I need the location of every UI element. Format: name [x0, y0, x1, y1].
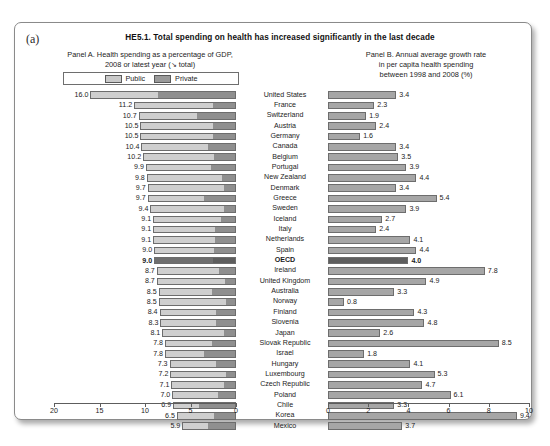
panel-a-value-label: 8.5: [123, 288, 157, 296]
panel-a-bar-segment-public: [154, 237, 215, 243]
panel-a-tick-label: 15: [96, 407, 104, 415]
panel-a-bar-segment-private: [158, 92, 235, 98]
panel-a-bar: [146, 164, 236, 172]
chart-row: 16.0United States3.4: [0, 90, 550, 100]
panel-a-tick-label: 0: [234, 407, 238, 415]
panel-a-bar-segment-private: [204, 196, 235, 202]
panel-a-bar-segment-public: [151, 206, 224, 212]
panel-b-bar: [328, 112, 366, 120]
panel-b-tick-mark: [449, 403, 450, 407]
panel-b-value-label: 3.3: [397, 288, 407, 296]
panel-a-value-label: 7.2: [134, 370, 168, 378]
panel-a-value-label: 10.7: [103, 112, 137, 120]
panel-a-bar: [143, 153, 236, 161]
panel-a-value-label: 7.0: [136, 391, 170, 399]
panel-a-heading: Panel A. Health spending as a percentage…: [50, 50, 250, 70]
panel-b-value-label: 6.1: [454, 391, 464, 399]
country-label: Canada: [246, 142, 324, 151]
country-label: Luxembourg: [246, 370, 324, 379]
country-label: Germany: [246, 132, 324, 141]
panel-a-bar-segment-private: [216, 361, 235, 367]
panel-a-bar: [148, 184, 236, 192]
panel-a-tick-mark: [54, 403, 55, 407]
panel-a-value-label: 16.0: [54, 91, 88, 99]
panel-b-bar: [328, 143, 396, 151]
panel-b-value-label: 7.8: [488, 267, 498, 275]
country-label: Switzerland: [246, 111, 324, 120]
panel-b-bar: [328, 91, 396, 99]
panel-a-bar-segment-public: [141, 134, 212, 140]
panel-b-bar: [328, 319, 424, 327]
panel-a-value-label: 8.5: [123, 298, 157, 306]
panel-a-bar-segment-private: [226, 299, 235, 305]
country-label: Netherlands: [246, 235, 324, 244]
panel-b-bar: [328, 309, 414, 317]
panel-a-tick-mark: [100, 403, 101, 407]
panel-b-value-label: 2.7: [385, 215, 395, 223]
panel-b-value-label: 8.5: [502, 339, 512, 347]
panel-a-value-label: 9.0: [118, 246, 152, 254]
panel-a-bar-segment-private: [221, 217, 235, 223]
chart-row: 8.7United Kingdom4.9: [0, 276, 550, 286]
panel-b-bar: [328, 195, 437, 203]
panel-b-bar: [328, 288, 394, 296]
chart-row: 10.5Germany1.6: [0, 131, 550, 141]
panel-b-value-label: 5.4: [440, 194, 450, 202]
panel-a-value-label: 9.0: [118, 257, 152, 265]
panel-a-bar-segment-private: [212, 289, 235, 295]
panel-a-bar-segment-public: [155, 248, 214, 254]
country-label: Ireland: [246, 266, 324, 275]
panel-a-value-label: 9.9: [110, 163, 144, 171]
panel-a-bar-segment-private: [222, 175, 235, 181]
panel-b-value-label: 3.4: [399, 91, 409, 99]
panel-a-bar-segment-public: [160, 289, 212, 295]
panel-a-bar-segment-public: [154, 227, 215, 233]
panel-a-bar-segment-private: [224, 206, 235, 212]
panel-a-bar-segment-public: [158, 268, 219, 274]
panel-a-value-label: 10.2: [107, 153, 141, 161]
country-label: Finland: [246, 308, 324, 317]
panel-a-value-label: 8.7: [121, 267, 155, 275]
country-label: United Kingdom: [246, 277, 324, 286]
country-label: Australia: [246, 287, 324, 296]
panel-a-tick-mark: [236, 403, 237, 407]
panel-a-value-label: 9.7: [112, 194, 146, 202]
panel-b-value-label: 3.5: [401, 153, 411, 161]
country-label: Hungary: [246, 360, 324, 369]
panel-b-bar: [328, 133, 360, 141]
panel-b-bar: [328, 422, 402, 430]
panel-a-bar-segment-private: [216, 310, 235, 316]
panel-b-bar: [328, 226, 376, 234]
chart-row: 9.0OECD4.0: [0, 256, 550, 266]
figure-panel-letter: (a): [26, 32, 39, 47]
country-label: France: [246, 101, 324, 110]
panel-a-value-label: 7.1: [135, 381, 169, 389]
panel-a-bar: [165, 350, 236, 358]
chart-title: HE5.1. Total spending on health has incr…: [60, 33, 500, 42]
panel-b-tick-label: 4: [406, 407, 410, 415]
legend-item-private: Private: [154, 74, 197, 83]
panel-a-bar-segment-private: [213, 134, 235, 140]
panel-a-bar-segment-public: [142, 144, 208, 150]
panel-a-bar-segment-private: [214, 154, 235, 160]
panel-a-value-label: 9.1: [117, 236, 151, 244]
country-label: Spain: [246, 246, 324, 255]
panel-a-bar-segment-public: [154, 217, 221, 223]
panel-a-value-label: 10.5: [104, 122, 138, 130]
panel-b-value-label: 0.8: [347, 298, 357, 306]
panel-b-bar: [328, 257, 408, 265]
panel-b-value-label: 4.4: [419, 174, 429, 182]
panel-b-bar: [328, 247, 416, 255]
panel-a-bar-segment-private: [225, 279, 235, 285]
panel-b-tick-mark: [368, 403, 369, 407]
panel-b-value-label: 5.3: [438, 370, 448, 378]
chart-row: 8.7Ireland7.8: [0, 266, 550, 276]
panel-a-value-label: 10.5: [104, 132, 138, 140]
panel-b-bar: [328, 267, 485, 275]
panel-a-bar: [153, 236, 236, 244]
country-label: Chile: [246, 401, 324, 410]
panel-a-bar: [150, 205, 236, 213]
panel-b-tick-mark: [529, 403, 530, 407]
country-label: Austria: [246, 122, 324, 131]
panel-a-value-label: 8.7: [121, 277, 155, 285]
